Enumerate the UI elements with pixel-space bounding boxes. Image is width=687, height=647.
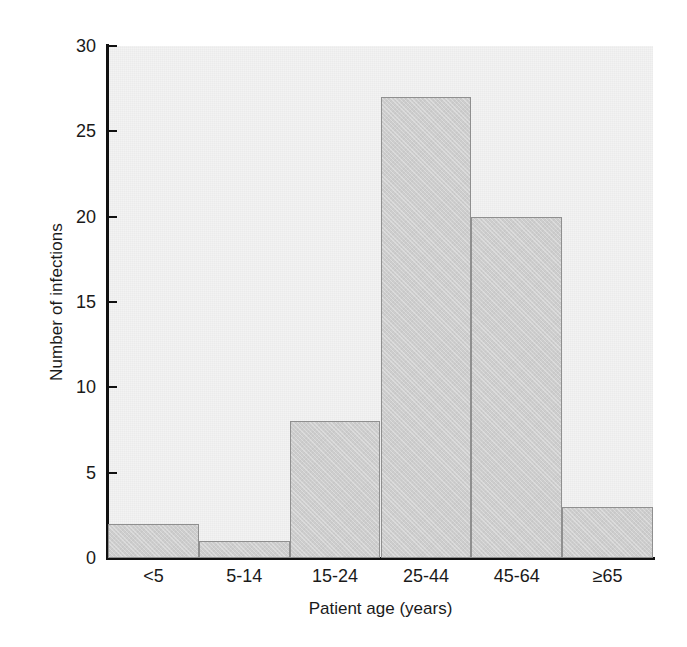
x-tick-label: ≥65 [593, 566, 623, 587]
y-tick-label: 15 [58, 292, 96, 313]
y-tick-label: 25 [58, 121, 96, 142]
bar [381, 97, 472, 558]
x-tick-label: 15-24 [312, 566, 358, 587]
plot-area [108, 46, 653, 558]
histogram-figure: Number of infections 051015202530 <55-14… [0, 0, 687, 647]
y-tick-label: 10 [58, 377, 96, 398]
bar-series [108, 46, 653, 558]
x-tick-label: 45-64 [494, 566, 540, 587]
x-axis-title: Patient age (years) [108, 599, 653, 619]
x-tick-label: 25-44 [403, 566, 449, 587]
bar [108, 524, 199, 558]
bar [471, 217, 562, 558]
bar [199, 541, 290, 558]
y-tick-label: 30 [58, 36, 96, 57]
y-tick-label: 20 [58, 206, 96, 227]
x-tick-label: 5-14 [226, 566, 262, 587]
x-axis-tick-labels: <55-1415-2425-4445-64≥65 [108, 566, 653, 596]
bar [290, 421, 381, 558]
y-tick-label: 0 [58, 548, 96, 569]
y-axis-tick-labels: 051015202530 [58, 0, 96, 647]
y-tick-label: 5 [58, 462, 96, 483]
bar [562, 507, 653, 558]
x-tick-label: <5 [143, 566, 164, 587]
